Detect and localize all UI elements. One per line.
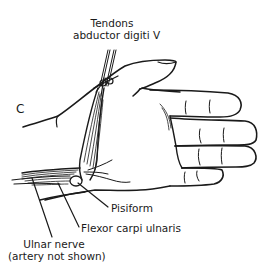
leader-ulnar-nerve xyxy=(32,178,52,237)
anatomy-figure: C Tendons abductor digiti V Pisiform Fle… xyxy=(0,0,273,272)
middle-crease-2 xyxy=(223,128,224,142)
label-tendons-line1: Tendons xyxy=(73,17,151,29)
label-flexor-carpi-ulnaris: Flexor carpi ulnaris xyxy=(81,222,181,234)
index-finger xyxy=(150,90,241,117)
palm-lower-outline xyxy=(45,186,170,200)
thumb-web xyxy=(133,88,180,96)
index-crease-1 xyxy=(185,101,186,114)
label-ulnar-line2: (artery not shown) xyxy=(8,250,100,262)
middle-finger xyxy=(170,118,257,146)
panel-letter: C xyxy=(16,103,24,115)
label-tendons: Tendons abductor digiti V xyxy=(73,17,151,41)
palm-edge xyxy=(170,116,182,168)
label-ulnar-nerve: Ulnar nerve (artery not shown) xyxy=(8,238,100,262)
ring-crease-1 xyxy=(198,149,200,165)
label-ulnar-line1: Ulnar nerve xyxy=(8,238,100,250)
index-crease-2 xyxy=(209,100,210,113)
ring-finger xyxy=(175,146,256,168)
leader-pisiform xyxy=(78,183,108,207)
wrist-crease xyxy=(56,116,58,127)
palm-shading xyxy=(160,104,171,130)
thumb-nail xyxy=(158,62,176,64)
forearm-lower-outline xyxy=(12,176,70,184)
middle-crease-1 xyxy=(199,129,201,143)
ring-crease-2 xyxy=(221,148,222,164)
little-crease-1 xyxy=(184,172,185,183)
label-pisiform: Pisiform xyxy=(111,202,153,214)
label-tendons-line2: abductor digiti V xyxy=(73,29,151,41)
little-crease-2 xyxy=(197,171,199,181)
leader-flexor xyxy=(58,183,79,227)
